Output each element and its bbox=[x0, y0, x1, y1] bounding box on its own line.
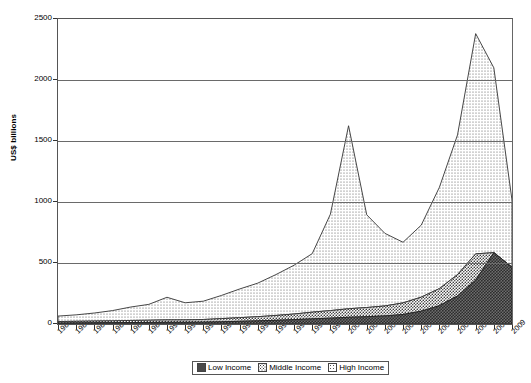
legend-swatch-middle-icon bbox=[258, 363, 267, 372]
legend-swatch-high-icon bbox=[328, 363, 337, 372]
y-axis-tick-label: 1500 bbox=[0, 136, 52, 144]
legend-item-low-income: Low Income bbox=[197, 363, 251, 372]
area-chart: US$ billions 05001000150020002500 198419… bbox=[0, 0, 531, 383]
y-axis-tick-label: 500 bbox=[0, 258, 52, 266]
gridline bbox=[58, 141, 512, 142]
y-axis-tick-label: 0 bbox=[0, 319, 52, 327]
legend-item-middle-income: Middle Income bbox=[258, 363, 321, 372]
area-high-income bbox=[58, 34, 512, 322]
legend-swatch-low-icon bbox=[197, 363, 206, 372]
legend-label-middle: Middle Income bbox=[269, 363, 321, 372]
legend-label-high: High Income bbox=[339, 363, 384, 372]
y-axis-tick-label: 2000 bbox=[0, 75, 52, 83]
gridline bbox=[58, 263, 512, 264]
legend-label-low: Low Income bbox=[208, 363, 251, 372]
gridline bbox=[58, 80, 512, 81]
y-axis-tick-label: 1000 bbox=[0, 197, 52, 205]
legend-item-high-income: High Income bbox=[328, 363, 384, 372]
plot-area bbox=[57, 18, 513, 325]
y-axis-tick-label: 2500 bbox=[0, 14, 52, 22]
series-layer bbox=[58, 19, 512, 324]
gridline bbox=[58, 202, 512, 203]
chart-legend: Low Income Middle Income High Income bbox=[192, 361, 389, 375]
